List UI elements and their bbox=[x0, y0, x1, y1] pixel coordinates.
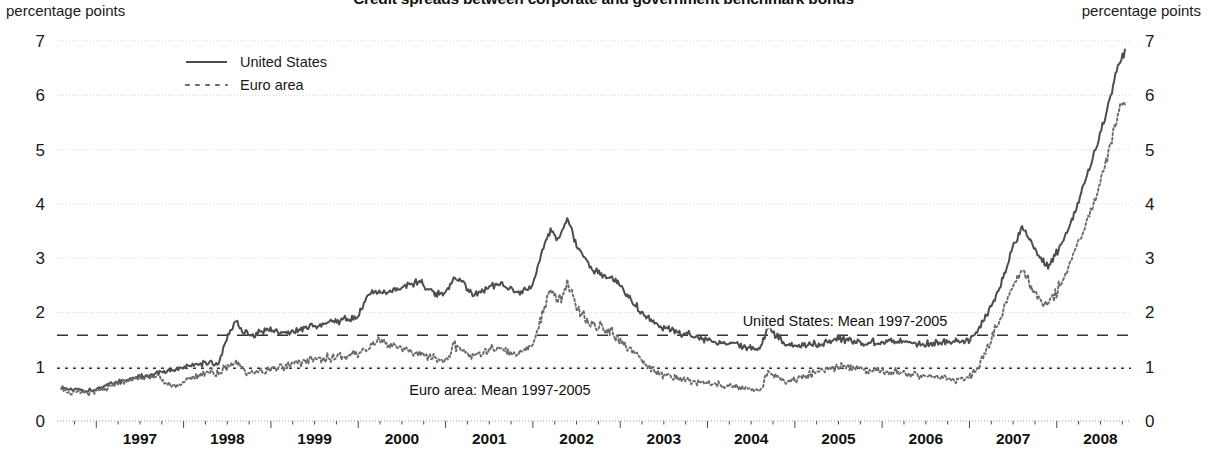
y-tick-label-left: 5 bbox=[36, 141, 45, 160]
chart-legend: United StatesEuro area bbox=[186, 54, 327, 93]
y-tick-label-right: 6 bbox=[1145, 86, 1154, 105]
y-axis-unit-left: percentage points bbox=[6, 2, 125, 19]
y-tick-label-left: 3 bbox=[36, 249, 45, 268]
legend-label: Euro area bbox=[240, 77, 305, 93]
y-gridlines bbox=[57, 41, 1131, 367]
legend-label: United States bbox=[240, 54, 327, 70]
y-tick-label-left: 6 bbox=[36, 86, 45, 105]
data-series-group bbox=[61, 49, 1125, 395]
mean-line-annotations: United States: Mean 1997-2005United Stat… bbox=[409, 313, 947, 398]
y-axis-tick-labels-right: 01234567 bbox=[1145, 32, 1154, 431]
y-tick-label-left: 4 bbox=[36, 195, 45, 214]
chart-title: Credit spreads between corporate and gov… bbox=[0, 0, 1207, 8]
y-tick-label-left: 7 bbox=[36, 32, 45, 51]
y-tick-label-right: 0 bbox=[1145, 412, 1154, 431]
y-axis-tick-labels-left: 01234567 bbox=[36, 32, 45, 431]
annotation-label: United States: Mean 1997-2005 bbox=[743, 313, 948, 329]
x-tick-label: 1999 bbox=[297, 430, 332, 447]
x-axis-tick-labels: 1997199819992000200120022003200420052006… bbox=[123, 430, 1118, 447]
x-tick-label: 1997 bbox=[123, 430, 157, 447]
y-tick-label-right: 3 bbox=[1145, 249, 1154, 268]
y-tick-label-left: 1 bbox=[36, 358, 45, 377]
series-line-euro-area bbox=[61, 102, 1125, 396]
y-tick-label-right: 4 bbox=[1145, 195, 1154, 214]
x-tick-label: 2004 bbox=[734, 430, 769, 447]
y-tick-label-right: 1 bbox=[1145, 358, 1154, 377]
credit-spread-line-chart: 01234567 01234567 1997199819992000200120… bbox=[0, 0, 1207, 449]
y-tick-label-right: 2 bbox=[1145, 303, 1154, 322]
x-tick-label: 2001 bbox=[472, 430, 507, 447]
y-tick-label-right: 5 bbox=[1145, 141, 1154, 160]
x-tick-label: 2005 bbox=[821, 430, 856, 447]
x-tick-label: 2003 bbox=[647, 430, 682, 447]
chart-root: Credit spreads between corporate and gov… bbox=[0, 0, 1207, 449]
x-tick-label: 2007 bbox=[996, 430, 1030, 447]
y-tick-label-left: 0 bbox=[36, 412, 45, 431]
annotation-label: Euro area: Mean 1997-2005 bbox=[409, 382, 590, 398]
x-tick-label: 2002 bbox=[559, 430, 593, 447]
x-axis bbox=[57, 421, 1131, 428]
y-tick-label-right: 7 bbox=[1145, 32, 1154, 51]
y-axis-unit-right: percentage points bbox=[1082, 2, 1201, 19]
x-tick-label: 2000 bbox=[385, 430, 419, 447]
x-tick-label: 2006 bbox=[909, 430, 944, 447]
x-tick-label: 1998 bbox=[210, 430, 245, 447]
series-line-united-states bbox=[61, 49, 1125, 391]
x-tick-label: 2008 bbox=[1083, 430, 1118, 447]
y-tick-label-left: 2 bbox=[36, 303, 45, 322]
